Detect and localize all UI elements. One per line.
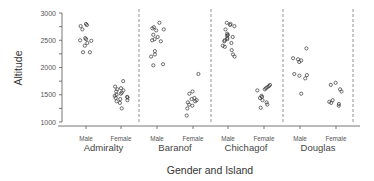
category-label: Male (221, 135, 235, 142)
category-label: Male (150, 135, 164, 142)
y-tick-label: 2000 (40, 64, 56, 71)
island-label: Admiralty (84, 142, 124, 153)
data-point (152, 64, 155, 67)
data-point (152, 33, 155, 36)
data-point (83, 44, 86, 47)
data-point (191, 104, 194, 107)
data-point (86, 41, 89, 44)
y-axis: 10001500200025003000 (40, 10, 62, 126)
y-tick-label: 1500 (40, 91, 56, 98)
data-point (305, 74, 308, 77)
data-point (233, 25, 236, 28)
category-label: Female (254, 135, 275, 142)
data-point (161, 63, 164, 66)
data-point (122, 80, 125, 83)
island-label: Baranof (158, 142, 192, 153)
data-point (81, 28, 84, 31)
y-tick-label: 3000 (40, 10, 56, 17)
data-point (261, 99, 264, 102)
y-axis-title: Altitude (12, 50, 24, 85)
data-point (153, 50, 156, 53)
data-point (81, 51, 84, 54)
data-point (292, 57, 295, 60)
data-point (305, 47, 308, 50)
data-point (191, 90, 194, 93)
data-point (158, 21, 161, 24)
data-point (115, 100, 118, 103)
data-point (259, 106, 262, 109)
category-label: Female (326, 135, 347, 142)
island-label: Chichagof (225, 142, 268, 153)
category-label: Female (183, 135, 204, 142)
data-point (88, 51, 91, 54)
data-point (329, 83, 332, 86)
x-axis-title: Gender and Island (167, 164, 254, 176)
x-axis: MaleFemaleMaleFemaleMaleFemaleMaleFemale… (58, 126, 360, 153)
data-point (186, 107, 189, 110)
data-point (79, 39, 82, 42)
data-point (230, 49, 233, 52)
data-point (118, 101, 121, 104)
group-separators (139, 9, 353, 123)
data-point (190, 98, 193, 101)
data-point (197, 72, 200, 75)
data-point (90, 39, 93, 42)
y-tick-label: 2500 (40, 37, 56, 44)
data-point (230, 41, 233, 44)
altitude-strip-chart: 10001500200025003000 MaleFemaleMaleFemal… (0, 0, 374, 181)
data-point (156, 35, 159, 38)
data-point (150, 55, 153, 58)
data-point (298, 74, 301, 77)
data-point (79, 25, 82, 28)
data-point (334, 81, 337, 84)
island-label: Douglas (301, 142, 336, 153)
data-point (300, 92, 303, 95)
category-label: Male (293, 135, 307, 142)
data-point (231, 35, 234, 38)
data-point (304, 77, 307, 80)
category-label: Male (79, 135, 93, 142)
data-point (256, 89, 259, 92)
data-point (159, 40, 162, 43)
data-point (224, 28, 227, 31)
data-point (120, 107, 123, 110)
y-tick-label: 1000 (40, 119, 56, 126)
data-point (188, 92, 191, 95)
data-point (185, 114, 188, 117)
data-point (293, 72, 296, 75)
data-point (155, 29, 158, 32)
data-point (162, 28, 165, 31)
data-point (119, 98, 122, 101)
data-point (153, 53, 156, 56)
data-point (225, 21, 228, 24)
category-label: Female (111, 135, 132, 142)
